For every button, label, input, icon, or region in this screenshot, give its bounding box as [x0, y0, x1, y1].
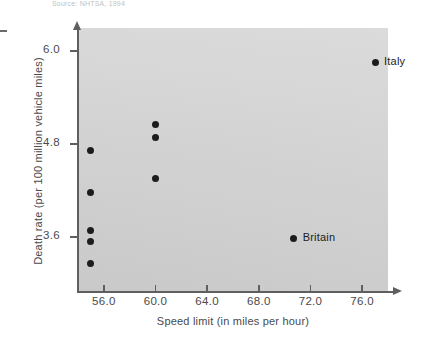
- y-tick-6.0: [70, 50, 79, 52]
- y-axis-title: Death rate (per 100 million vehicle mile…: [32, 41, 44, 281]
- x-tick-56.0: [103, 285, 105, 293]
- x-tick-72.0: [310, 285, 312, 293]
- x-tick-68.0: [258, 285, 260, 293]
- y-tick-3.6: [70, 236, 79, 238]
- x-tick-label-60.0: 60.0: [134, 295, 178, 307]
- x-axis-line: [77, 291, 395, 293]
- data-point-italy: [372, 59, 379, 66]
- x-axis-title: Speed limit (in miles per hour): [78, 315, 388, 327]
- x-tick-label-68.0: 68.0: [237, 295, 281, 307]
- scatter-plot-figure: 6.04.83.6 56.060.064.068.072.076.0 Brita…: [0, 0, 427, 346]
- plot-area: [78, 28, 388, 291]
- y-axis-line: [77, 28, 79, 292]
- y-axis-arrow-icon: [73, 21, 81, 30]
- y-tick-4.8: [70, 143, 79, 145]
- x-tick-60.0: [155, 285, 157, 293]
- point-label-britain: Britain: [303, 231, 336, 243]
- x-tick-label-56.0: 56.0: [82, 295, 126, 307]
- x-tick-label-64.0: 64.0: [185, 295, 229, 307]
- x-axis-arrow-icon: [393, 287, 402, 295]
- x-tick-76.0: [361, 285, 363, 293]
- x-tick-label-72.0: 72.0: [289, 295, 333, 307]
- x-tick-label-76.0: 76.0: [340, 295, 384, 307]
- point-label-italy: Italy: [384, 55, 405, 67]
- x-tick-64.0: [206, 285, 208, 293]
